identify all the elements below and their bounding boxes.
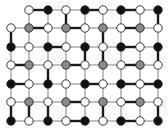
white-node [136,117,144,125]
white-node [81,24,89,32]
black-node [81,80,89,88]
black-node [7,80,15,88]
white-node [136,6,144,14]
white-node [154,61,162,69]
white-node [99,117,107,125]
white-node [25,80,33,88]
gray-node [99,24,107,32]
white-node [25,117,33,125]
black-node [117,43,125,51]
dimer-lattice-diagram [0,0,168,134]
gray-node [62,98,70,106]
black-node [154,80,162,88]
gray-node [25,98,33,106]
white-node [44,24,52,32]
white-node [154,98,162,106]
white-node [62,43,70,51]
white-node [99,6,107,14]
black-node [44,43,52,51]
gray-node [136,98,144,106]
white-node [7,98,15,106]
white-node [7,24,15,32]
white-node [25,6,33,14]
gray-node [25,61,33,69]
black-node [117,117,125,125]
white-node [154,24,162,32]
black-node [44,117,52,125]
white-node [136,43,144,51]
gray-node [99,98,107,106]
white-node [81,61,89,69]
gray-node [136,24,144,32]
white-node [81,98,89,106]
white-node [99,80,107,88]
black-node [81,117,89,125]
white-node [44,61,52,69]
white-node [117,61,125,69]
gray-node [99,61,107,69]
white-node [62,117,70,125]
gray-node [62,61,70,69]
black-node [154,43,162,51]
gray-node [136,61,144,69]
white-node [25,43,33,51]
white-node [62,80,70,88]
white-node [44,98,52,106]
white-node [7,61,15,69]
white-node [136,80,144,88]
black-node [117,80,125,88]
white-node [99,43,107,51]
white-node [117,98,125,106]
black-node [117,6,125,14]
black-node [7,117,15,125]
gray-node [25,24,33,32]
white-node [117,24,125,32]
black-node [81,43,89,51]
black-node [154,6,162,14]
black-node [44,80,52,88]
white-node [62,6,70,14]
black-node [81,6,89,14]
black-node [154,117,162,125]
black-node [7,43,15,51]
gray-node [62,24,70,32]
black-node [44,6,52,14]
